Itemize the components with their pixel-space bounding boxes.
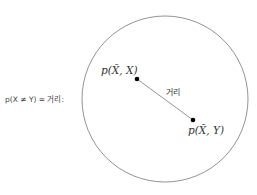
point-b-dot <box>191 118 196 123</box>
distance-label: 거리 <box>166 89 180 97</box>
point-a-dot <box>135 77 140 82</box>
distance-line <box>137 79 193 120</box>
point-b-label: p(X̃, Y) <box>188 125 224 136</box>
probability-label: p(X ≠ Y) = 거리: <box>5 96 64 104</box>
point-a-label: p(X̃, X) <box>101 65 138 76</box>
